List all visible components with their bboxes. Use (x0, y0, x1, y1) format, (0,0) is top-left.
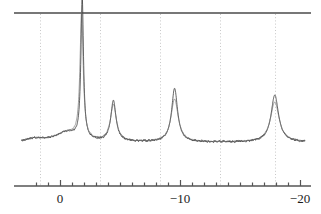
spectrum-figure: 0 −10 −20 (0, 0, 321, 214)
x-tick-label-minus20: −20 (290, 191, 310, 206)
spectrum-plot: 0 −10 −20 (0, 0, 321, 214)
x-tick-label-minus10: −10 (170, 191, 190, 206)
x-tick-label-0: 0 (57, 191, 64, 206)
